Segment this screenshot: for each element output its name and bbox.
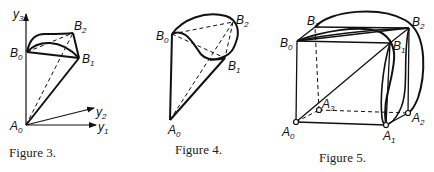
figure-4: B0 B2 B1 A0 Figure 4.	[156, 13, 249, 157]
edge-a0-b0	[296, 41, 297, 122]
label-b0: B0	[156, 29, 169, 45]
label-a3: A3	[321, 97, 335, 113]
label-a0: A0	[9, 119, 23, 135]
label-y3: y3	[12, 7, 24, 23]
dashed-b0-b2	[27, 33, 73, 52]
label-b2: B2	[74, 19, 87, 35]
vertex-a1	[384, 123, 389, 128]
label-b2: B2	[412, 15, 425, 31]
label-b1: B1	[82, 52, 94, 68]
caption-figure-4: Figure 4.	[175, 142, 222, 157]
curve-b0-b2-b1	[172, 14, 238, 60]
edge-b0-b1	[297, 41, 390, 43]
label-b0: B0	[10, 46, 23, 62]
edge-a0-b1	[170, 58, 225, 120]
label-b0: B0	[280, 36, 293, 52]
edge-a0-b1	[26, 58, 79, 125]
vertex-a0	[294, 120, 299, 125]
label-y2: y2	[95, 105, 107, 121]
vertex-a3	[317, 108, 322, 113]
edge-a2-b2	[408, 28, 409, 113]
diagonal-a0-b1	[296, 43, 390, 122]
figures-canvas: y3 B2 B0 B1 y2 y1 A0 Figure 3. B0 B2 B1 …	[0, 0, 434, 172]
figure-3: y3 B2 B0 B1 y2 y1 A0 Figure 3.	[9, 7, 108, 160]
caption-figure-3: Figure 3.	[9, 145, 56, 160]
caption-figure-5: Figure 5.	[319, 150, 366, 165]
label-b1: B1	[228, 59, 240, 75]
dashed-a0-b2	[170, 22, 233, 120]
label-y1: y1	[97, 120, 108, 136]
vertex-a2	[406, 111, 411, 116]
label-b1: B1	[393, 39, 405, 55]
label-a1: A1	[382, 129, 395, 145]
dashed-a3-b3	[315, 27, 319, 110]
label-a2: A2	[411, 111, 425, 127]
label-b3: B3	[307, 14, 320, 30]
edge-a0-b0	[170, 34, 172, 120]
figure-5: B3 B2 B0 B1 A3 A2 A0 A1 Figure 5.	[280, 12, 425, 165]
label-b2: B2	[236, 13, 249, 29]
edge-b0-b1	[27, 52, 79, 58]
edge-a0-a1	[296, 122, 386, 125]
label-a0: A0	[281, 125, 295, 141]
label-a0: A0	[167, 123, 181, 139]
